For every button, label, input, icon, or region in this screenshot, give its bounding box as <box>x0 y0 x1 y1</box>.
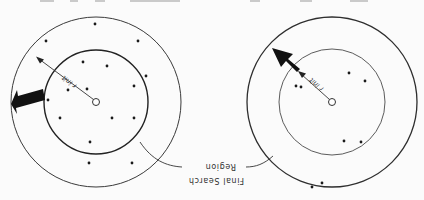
expansion-arrow-icon <box>272 48 300 72</box>
sparse-dots-screen <box>300 80 367 185</box>
label-connector <box>140 142 182 167</box>
panel-dense: r init <box>11 17 182 187</box>
search-region-diagram: r init <box>0 0 424 200</box>
radius-label: r init <box>60 74 78 90</box>
contraction-arrow-icon <box>11 89 45 114</box>
final-search-region-label-line2: Region <box>205 162 236 171</box>
radius-label: r init <box>308 76 326 93</box>
radius-arrowhead-icon <box>36 57 44 64</box>
label-connector-right <box>246 156 273 167</box>
center-marker <box>93 99 100 106</box>
sample-dots <box>295 72 363 189</box>
final-search-region-label-line1: Final Search <box>188 176 244 185</box>
center-marker <box>329 99 336 106</box>
cropped-caption-fragment <box>40 0 368 2</box>
sample-dots <box>45 23 148 165</box>
diagram-canvas: r init <box>0 0 424 200</box>
panel-sparse: r init <box>247 17 417 188</box>
